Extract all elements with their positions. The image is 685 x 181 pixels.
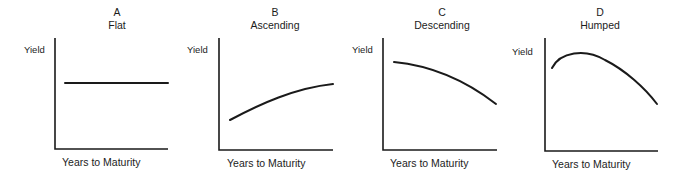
panel-title: Humped: [580, 19, 620, 31]
axes: [383, 38, 497, 150]
panel-letter: D: [596, 6, 604, 18]
panel-c: C Descending Yield Years to Maturity: [352, 6, 497, 169]
panel-d: D Humped Yield Years to Maturity: [512, 6, 658, 170]
humped-curve: [552, 53, 657, 104]
ascending-curve: [230, 84, 333, 120]
axes: [55, 38, 168, 149]
axes: [545, 38, 658, 151]
axes: [219, 38, 333, 150]
x-axis-label: Years to Maturity: [227, 157, 306, 169]
y-axis-label: Yield: [187, 44, 208, 55]
descending-curve: [394, 62, 496, 104]
panel-title: Flat: [108, 19, 126, 31]
y-axis-label: Yield: [352, 44, 373, 55]
yield-curve-figure: A Flat Yield Years to Maturity B Ascendi…: [0, 0, 685, 181]
x-axis-label: Years to Maturity: [390, 157, 469, 169]
x-axis-label: Years to Maturity: [62, 156, 141, 168]
y-axis-label: Yield: [512, 46, 533, 57]
x-axis-label: Years to Maturity: [552, 158, 631, 170]
panel-letter: A: [113, 6, 120, 18]
panel-letter: C: [438, 6, 446, 18]
panel-title: Descending: [414, 19, 470, 31]
panel-b: B Ascending Yield Years to Maturity: [187, 6, 333, 169]
panel-title: Ascending: [250, 19, 299, 31]
panel-a: A Flat Yield Years to Maturity: [24, 6, 168, 168]
y-axis-label: Yield: [24, 44, 45, 55]
panel-letter: B: [271, 6, 278, 18]
